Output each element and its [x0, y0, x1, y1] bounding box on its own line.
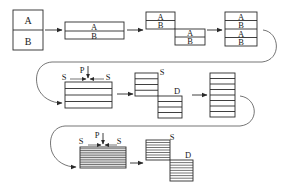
layer-label-b: B [91, 31, 97, 41]
stage-9-split-stack [146, 140, 193, 181]
stage-3-block: A B A B [146, 12, 205, 47]
layer-label-b: B [158, 20, 164, 30]
stage-2-block: A B [65, 22, 124, 41]
layer-label-a: A [24, 15, 32, 26]
process-diagram: A B A B A B A B A B A B [0, 0, 290, 195]
displacement-label: D [174, 86, 180, 96]
shear-label-right: S [117, 136, 122, 146]
pressure-label: P [80, 65, 85, 75]
layer-label-b: B [238, 37, 244, 47]
shear-label-right: S [106, 72, 111, 82]
split-label: S [160, 67, 165, 77]
stage-5-pressed-stack [65, 82, 112, 108]
layer-label-b: B [25, 36, 32, 47]
split-label: S [170, 132, 175, 142]
layer-label-b: B [187, 36, 193, 46]
stage-8-pressed-stack [80, 147, 126, 168]
stage-7-tall-stack [210, 73, 235, 117]
shear-label-left: S [79, 136, 84, 146]
displacement-label: D [185, 150, 191, 160]
shear-label-left: S [62, 72, 67, 82]
stage-1-block: A B [13, 10, 43, 50]
pressure-label: P [95, 130, 100, 140]
stage-4-block: A B A B [225, 12, 257, 48]
